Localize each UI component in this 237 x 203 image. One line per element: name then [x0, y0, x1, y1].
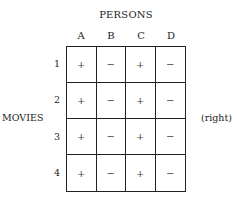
movies-label: MOVIES	[2, 112, 43, 123]
movie-person-matrix: + − + − + − + − + − + − + − + −	[66, 46, 186, 192]
matrix-cell: +	[126, 83, 156, 119]
column-label-a: A	[66, 30, 96, 41]
matrix-cell: +	[67, 119, 97, 155]
column-label-d: D	[156, 30, 186, 41]
column-label-c: C	[126, 30, 156, 41]
matrix-cell: −	[156, 119, 186, 155]
matrix-cell: +	[126, 47, 156, 83]
matrix-cell: +	[67, 155, 97, 191]
matrix-cell: −	[97, 47, 127, 83]
row-label-3: 3	[50, 131, 60, 142]
persons-title: PERSONS	[66, 9, 186, 20]
matrix-cell: +	[67, 83, 97, 119]
row-label-2: 2	[50, 94, 60, 105]
matrix-cell: +	[126, 119, 156, 155]
right-label: (right)	[201, 112, 232, 123]
matrix-cell: −	[156, 83, 186, 119]
matrix-cell: −	[156, 47, 186, 83]
row-label-1: 1	[50, 58, 60, 69]
row-label-4: 4	[50, 167, 60, 178]
matrix-cell: −	[97, 83, 127, 119]
matrix-cell: −	[156, 155, 186, 191]
matrix-cell: +	[67, 47, 97, 83]
matrix-cell: −	[97, 119, 127, 155]
matrix-cell: −	[97, 155, 127, 191]
column-label-b: B	[96, 30, 126, 41]
matrix-cell: +	[126, 155, 156, 191]
